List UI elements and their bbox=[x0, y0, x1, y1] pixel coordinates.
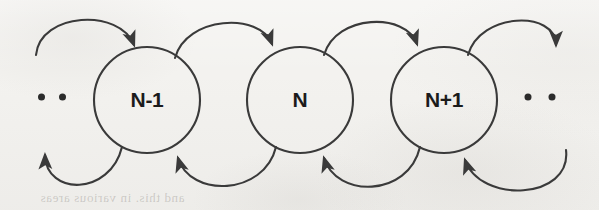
state-label-n: N bbox=[293, 88, 308, 112]
right-ellipsis bbox=[525, 94, 556, 101]
transition-arc-bwd-n-minus-1-to-left-ellipsis bbox=[45, 147, 122, 185]
ellipsis-dot bbox=[38, 94, 45, 101]
left-ellipsis bbox=[38, 94, 66, 101]
transition-arc-bwd-n-plus-1-to-n bbox=[324, 147, 420, 187]
transition-arc-fwd-n-to-n-plus-1 bbox=[324, 22, 417, 55]
state-label-n-minus-1: N-1 bbox=[131, 88, 164, 112]
state-label-n-plus-1: N+1 bbox=[425, 88, 463, 112]
ellipsis-dot bbox=[525, 94, 532, 101]
ellipsis-dot bbox=[59, 94, 66, 101]
transition-arc-bwd-n-to-n-minus-1 bbox=[178, 147, 276, 186]
transition-arc-fwd-from-left-ellipsis bbox=[36, 20, 134, 55]
transition-arc-fwd-n-minus-1-to-n bbox=[175, 23, 272, 58]
ellipsis-dot bbox=[549, 94, 556, 101]
diagram-canvas: N-1 N N+1 and this. in various areas bbox=[0, 0, 599, 210]
transition-arc-fwd-n-plus-1-to-right-ellipsis bbox=[468, 21, 556, 55]
transition-arc-bwd-right-ellipsis-to-n-plus-1 bbox=[465, 150, 566, 190]
